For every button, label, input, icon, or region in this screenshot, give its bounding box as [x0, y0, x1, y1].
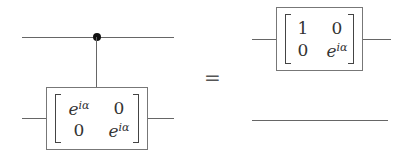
- control-dot: [93, 33, 101, 41]
- controlled-phase-gate: eiα 0 0 eiα: [46, 87, 148, 150]
- left-bottom-wire-out: [148, 118, 174, 119]
- gate-matrix: eiα 0 0 eiα: [47, 88, 147, 149]
- matrix-cell-01: 0: [317, 18, 357, 38]
- right-top-wire-in: [252, 39, 276, 40]
- matrix-cell-00: eiα: [59, 96, 99, 119]
- gate-matrix: 1 0 0 eiα: [277, 8, 362, 70]
- matrix-cell-10: 0: [59, 120, 99, 140]
- right-bottom-wire: [252, 120, 388, 121]
- left-bottom-wire-in: [22, 118, 46, 119]
- equals-sign: =: [204, 66, 221, 90]
- matrix-cell-01: 0: [99, 98, 139, 118]
- matrix-cell-11: eiα: [317, 38, 357, 61]
- control-line: [96, 37, 97, 87]
- right-top-wire-out: [363, 39, 391, 40]
- phase-gate: 1 0 0 eiα: [276, 7, 363, 71]
- matrix-cell-11: eiα: [99, 118, 139, 141]
